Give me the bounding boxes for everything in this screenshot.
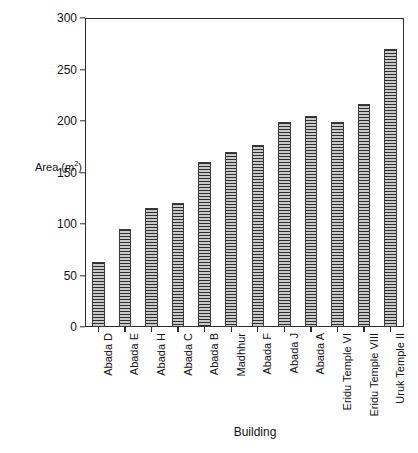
y-axis-ticks: 050100150200250300 [0, 0, 85, 453]
x-tick-label: Abada D [103, 333, 114, 376]
y-tick-label: 200 [37, 115, 77, 127]
x-tick-mark [124, 327, 125, 332]
x-tick-label-text: Abada A [315, 333, 326, 375]
x-tick-label: Eridu Temple VI [342, 333, 353, 410]
x-tick-label-text: Madhhur [236, 333, 247, 376]
x-tick-mark [310, 327, 311, 332]
x-tick-mark [98, 327, 99, 332]
x-tick-label: Abada E [129, 333, 140, 375]
x-tick-label-text: Abada J [289, 333, 300, 373]
x-axis-title: Building [210, 425, 300, 439]
x-tick-label: Abada F [262, 333, 273, 375]
x-tick-label-text: Abada F [262, 333, 273, 375]
x-tick-mark [204, 327, 205, 332]
bar [198, 162, 211, 327]
x-tick-mark [177, 327, 178, 332]
bar-chart-figure: Area (m2) 050100150200250300 Abada DAbad… [0, 0, 418, 453]
x-tick-label-text: Abada H [156, 333, 167, 376]
y-tick-label: 250 [37, 64, 77, 76]
y-tick-label: 0 [37, 321, 77, 333]
bar [119, 229, 132, 327]
x-tick-label: Madhhur [236, 333, 247, 376]
bar [145, 208, 158, 327]
x-tick-label-text: Abada B [209, 333, 220, 375]
x-tick-mark [284, 327, 285, 332]
x-tick-label: Eridu Temple VIII [369, 333, 380, 417]
x-tick-mark [257, 327, 258, 332]
bar [92, 262, 105, 327]
x-tick-mark [390, 327, 391, 332]
x-tick-mark [231, 327, 232, 332]
x-tick-label-text: Abada C [183, 333, 194, 376]
x-tick-label-text: Abada E [129, 333, 140, 375]
x-tick-mark [151, 327, 152, 332]
x-axis-category-labels: Abada DAbada EAbada HAbada CAbada BMadhh… [85, 333, 404, 425]
bar [331, 122, 344, 327]
y-tick-label: 150 [37, 167, 77, 179]
y-tick-label: 50 [37, 270, 77, 282]
x-tick-label: Abada B [209, 333, 220, 375]
bars-layer [85, 18, 404, 327]
bar [278, 122, 291, 327]
x-tick-mark [337, 327, 338, 332]
y-tick-label: 100 [37, 218, 77, 230]
x-tick-label: Abada H [156, 333, 167, 376]
x-tick-label: Abada A [315, 333, 326, 375]
bar [305, 116, 318, 327]
x-tick-label: Abada C [183, 333, 194, 376]
y-tick-label: 300 [37, 12, 77, 24]
bar [252, 145, 265, 327]
x-tick-label: Abada J [289, 333, 300, 373]
x-tick-label: Uruk Temple II [395, 333, 406, 404]
x-tick-label-text: Uruk Temple II [395, 333, 406, 404]
x-tick-label-text: Eridu Temple VI [342, 333, 353, 410]
x-tick-label-text: Eridu Temple VIII [369, 333, 380, 417]
x-tick-label-text: Abada D [103, 333, 114, 376]
bar [225, 152, 238, 327]
bar [358, 104, 371, 328]
x-tick-mark [363, 327, 364, 332]
bar [172, 203, 185, 327]
bar [384, 49, 397, 327]
